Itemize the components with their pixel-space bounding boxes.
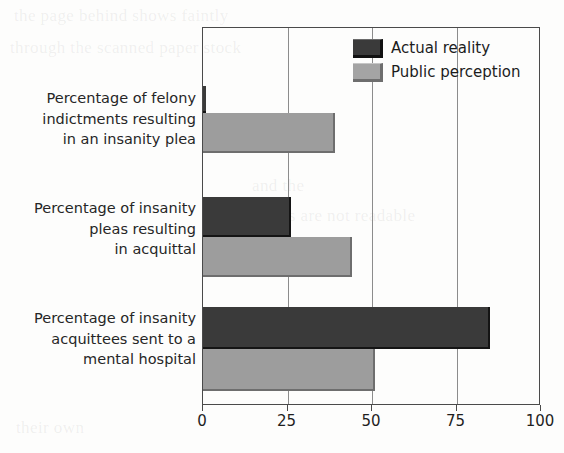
category-label-line: mental hospital <box>6 349 196 370</box>
legend-item-actual-reality[interactable]: Actual reality <box>353 37 520 59</box>
category-label-line: in an insanity plea <box>6 129 196 150</box>
xtick-mark-100 <box>540 405 541 411</box>
bar-public-perception-insanity-pleas-acquittal[interactable] <box>203 237 352 277</box>
plot-area: Actual reality Public perception <box>202 27 540 405</box>
bar-public-perception-acquittees-mental-hospital[interactable] <box>203 349 375 391</box>
xtick-label-50: 50 <box>361 412 380 430</box>
xtick-label-25: 25 <box>277 412 296 430</box>
legend-label: Actual reality <box>391 39 490 57</box>
category-label-insanity-pleas-acquittal: Percentage of insanity pleas resulting i… <box>6 198 196 260</box>
category-label-felony-indictments: Percentage of felony indictments resulti… <box>6 88 196 150</box>
category-label-line: Percentage of felony <box>6 88 196 109</box>
category-label-line: pleas resulting <box>6 219 196 240</box>
xtick-label-0: 0 <box>197 412 207 430</box>
bar-public-perception-felony-indictments[interactable] <box>203 113 335 153</box>
xtick-mark-25 <box>287 405 288 411</box>
legend-swatch-icon <box>353 39 383 58</box>
xtick-label-75: 75 <box>446 412 465 430</box>
category-label-line: Percentage of insanity <box>6 198 196 219</box>
category-label-line: Percentage of insanity <box>6 308 196 329</box>
xtick-label-100: 100 <box>526 412 555 430</box>
legend-label: Public perception <box>391 63 520 81</box>
category-label-line: in acquittal <box>6 239 196 260</box>
legend-swatch-icon <box>353 63 383 82</box>
xtick-mark-50 <box>371 405 372 411</box>
category-label-line: indictments resulting <box>6 109 196 130</box>
xtick-mark-0 <box>202 405 203 411</box>
category-label-acquittees-mental-hospital: Percentage of insanity acquittees sent t… <box>6 308 196 370</box>
category-label-line: acquittees sent to a <box>6 329 196 350</box>
chart-page: the page behind shows faintly through th… <box>0 0 564 453</box>
xtick-mark-75 <box>456 405 457 411</box>
bar-actual-reality-felony-indictments[interactable] <box>203 86 206 113</box>
legend-item-public-perception[interactable]: Public perception <box>353 61 520 83</box>
bar-actual-reality-insanity-pleas-acquittal[interactable] <box>203 197 291 237</box>
legend: Actual reality Public perception <box>353 37 520 83</box>
bar-actual-reality-acquittees-mental-hospital[interactable] <box>203 307 490 349</box>
